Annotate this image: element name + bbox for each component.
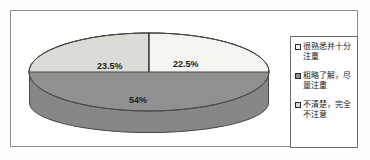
legend-item-0[interactable]: 很熟悉并十分注重 [295,42,354,62]
legend-item-1[interactable]: 粗略了解，尽量注重 [295,71,354,91]
legend-swatch-icon-2 [295,102,301,108]
pie-graphic: 22.5% 23.5% 54% [25,31,273,139]
chart-legend: 很熟悉并十分注重 粗略了解，尽量注重 不清楚，完全不注意 [290,36,358,148]
legend-label-1: 粗略了解，尽量注重 [303,71,354,91]
legend-item-2[interactable]: 不清楚，完全不注意 [295,100,354,120]
pie-slice-label-54: 54% [129,95,147,105]
pie-slice-22-5 [149,33,269,72]
legend-label-2: 不清楚，完全不注意 [303,100,354,120]
pie-slice-label-22-5: 22.5% [173,59,199,69]
pie-slice-label-23-5: 23.5% [97,61,123,71]
legend-label-0: 很熟悉并十分注重 [303,42,354,62]
pie-chart-figure: 22.5% 23.5% 54% 很熟悉并十分注重 粗略了解，尽量注重 不清楚，完… [0,0,370,160]
legend-swatch-icon-0 [295,44,301,50]
legend-swatch-icon-1 [295,73,301,79]
pie-slice-23-5 [29,33,149,72]
pie-top-face [29,33,269,111]
chart-plot-frame: 22.5% 23.5% 54% 很熟悉并十分注重 粗略了解，尽量注重 不清楚，完… [10,10,358,147]
